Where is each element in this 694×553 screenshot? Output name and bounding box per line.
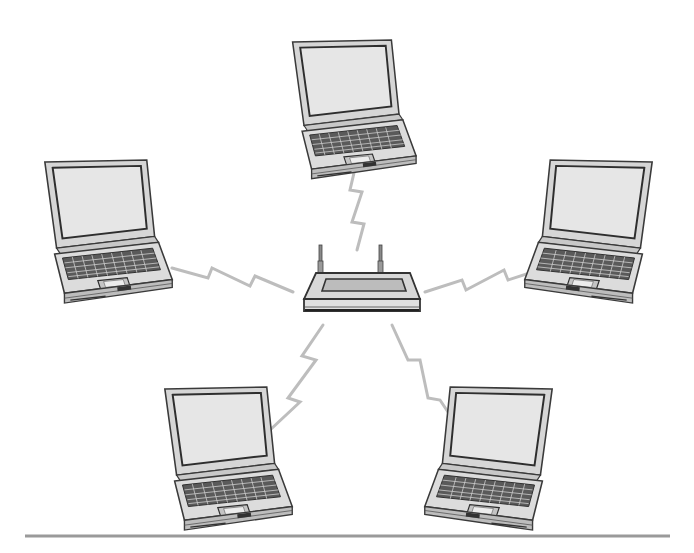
laptop-right xyxy=(525,160,652,303)
link-top xyxy=(350,160,364,250)
laptop-left xyxy=(45,160,172,303)
laptop-bottom-left xyxy=(165,387,292,530)
network-diagram xyxy=(0,0,694,553)
wireless-router xyxy=(304,245,420,311)
link-bottom-left xyxy=(270,325,323,430)
link-left xyxy=(172,268,293,292)
laptop-top xyxy=(293,40,417,179)
